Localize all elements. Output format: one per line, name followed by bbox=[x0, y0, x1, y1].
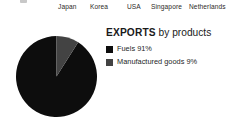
chart-legend: Fuels 91% Manufactured goods 9% bbox=[106, 43, 228, 69]
exports-pie-chart bbox=[16, 36, 97, 117]
legend-label-fuels: Fuels 91% bbox=[117, 44, 152, 54]
pie-svg bbox=[16, 36, 97, 117]
chart-title-rest: by products bbox=[156, 27, 212, 38]
axis-tick-label-japan: Japan bbox=[58, 1, 76, 12]
legend-swatch-manufactured-goods-icon bbox=[106, 59, 113, 66]
chart-title-strong: EXPORTS bbox=[106, 27, 156, 38]
legend-item-manufactured-goods: Manufactured goods 9% bbox=[106, 56, 228, 68]
axis-tick-label-korea: Korea bbox=[90, 1, 108, 12]
axis-tick-label-singapore: Singapore bbox=[151, 1, 182, 12]
chart-title: EXPORTS by products bbox=[106, 26, 211, 39]
legend-label-manufactured-goods: Manufactured goods 9% bbox=[117, 57, 197, 67]
axis-tick-label-row: Japan Korea USA Singapore Netherlands bbox=[0, 1, 229, 14]
legend-swatch-fuels-icon bbox=[106, 46, 113, 53]
clipped-bar-fragment bbox=[20, 0, 27, 3]
legend-item-fuels: Fuels 91% bbox=[106, 43, 228, 55]
axis-tick-label-netherlands: Netherlands bbox=[189, 1, 226, 12]
axis-tick-label-usa: USA bbox=[127, 1, 141, 12]
